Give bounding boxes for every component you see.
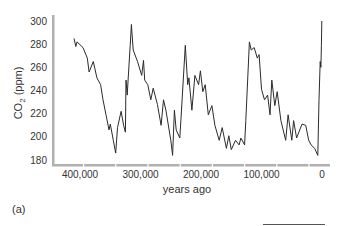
x-axis-title: years ago <box>163 183 211 195</box>
x-tick-label: 0 <box>319 169 325 180</box>
panel-label: (a) <box>12 203 25 215</box>
y-tick-label: 260 <box>30 62 47 73</box>
y-tick-label: 240 <box>30 85 47 96</box>
x-tick-label: 300,000 <box>122 169 159 180</box>
y-axis-title: CO2 (ppm) <box>12 67 27 120</box>
y-tick-label: 200 <box>30 131 47 142</box>
x-tick-label: 400,000 <box>62 169 99 180</box>
x-tick-label: 100,000 <box>243 169 280 180</box>
co2-series-line <box>74 21 322 155</box>
y-tick-label: 220 <box>30 108 47 119</box>
x-tick-labels: 400,000300,000200,000100,0000 <box>62 169 325 180</box>
x-tick-label: 200,000 <box>183 169 220 180</box>
y-tick-labels: 180200220240260280300 <box>30 16 47 166</box>
co2-chart: 180200220240260280300 400,000300,000200,… <box>0 0 349 226</box>
y-tick-label: 300 <box>30 16 47 27</box>
y-axis-line <box>52 15 55 166</box>
x-axis-line <box>52 164 330 167</box>
y-tick-label: 180 <box>30 155 47 166</box>
y-tick-label: 280 <box>30 39 47 50</box>
scale-bar-line <box>263 224 325 225</box>
